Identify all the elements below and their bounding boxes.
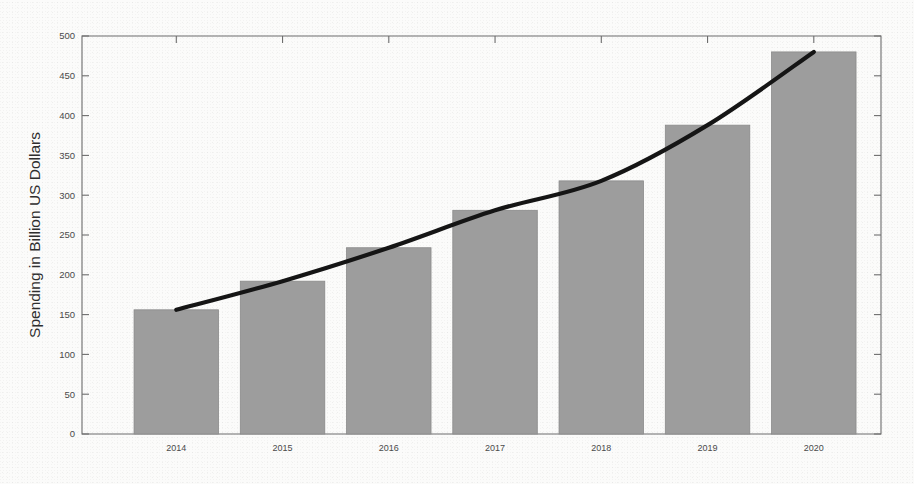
- x-axis-tick-labels: 2014201520162017201820192020: [166, 443, 824, 453]
- bar: [453, 210, 537, 434]
- bar: [134, 310, 218, 434]
- y-tick-label: 0: [70, 428, 75, 439]
- y-tick-label: 300: [59, 190, 75, 201]
- x-tick-label: 2014: [166, 443, 186, 453]
- bar: [665, 125, 749, 434]
- y-tick-label: 500: [59, 30, 75, 41]
- y-tick-label: 450: [59, 70, 75, 81]
- x-tick-label: 2016: [379, 443, 399, 453]
- y-tick-label: 50: [64, 389, 75, 400]
- y-axis-tick-labels: 050100150200250300350400450500: [59, 30, 75, 439]
- y-axis-title: Spending in Billion US Dollars: [26, 132, 43, 338]
- bar-chart-canvas: 050100150200250300350400450500 201420152…: [0, 0, 914, 484]
- bar: [772, 52, 856, 434]
- bar-series: [134, 52, 856, 434]
- x-tick-label: 2015: [273, 443, 293, 453]
- bar: [347, 248, 431, 434]
- y-tick-label: 350: [59, 150, 75, 161]
- y-tick-label: 150: [59, 309, 75, 320]
- y-tick-label: 200: [59, 269, 75, 280]
- x-tick-label: 2018: [591, 443, 611, 453]
- x-tick-label: 2017: [485, 443, 505, 453]
- y-tick-label: 250: [59, 229, 75, 240]
- bar: [559, 181, 643, 434]
- bar: [240, 281, 324, 434]
- y-tick-label: 100: [59, 349, 75, 360]
- y-tick-label: 400: [59, 110, 75, 121]
- x-tick-label: 2019: [698, 443, 718, 453]
- chart-figure: 050100150200250300350400450500 201420152…: [0, 0, 914, 484]
- x-tick-label: 2020: [804, 443, 824, 453]
